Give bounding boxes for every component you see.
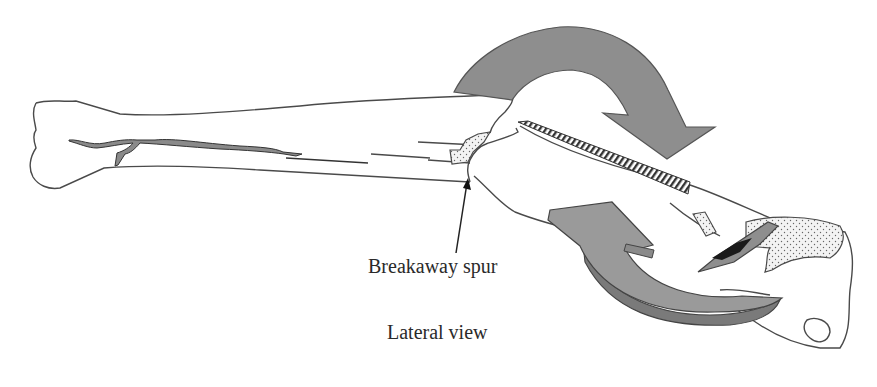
rotation-arrow-top — [454, 27, 715, 159]
stippled-fragment-small — [693, 212, 716, 236]
rotation-arrow-bottom — [548, 202, 782, 325]
view-caption: Lateral view — [387, 321, 488, 344]
tibia-shaft — [30, 94, 512, 188]
stippled-fragment-distal — [746, 217, 843, 272]
spur-pointer-arrow — [456, 178, 471, 253]
fracture-line — [69, 140, 368, 166]
breakaway-spur-label: Breakaway spur — [368, 255, 497, 278]
